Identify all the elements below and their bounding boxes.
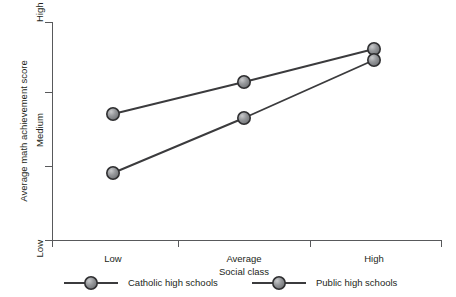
- x-tick-label-high: High: [364, 253, 384, 264]
- series-catholic-high-schools: [107, 43, 380, 120]
- chart-figure: High Medium Low Average math achievement…: [0, 0, 456, 297]
- y-tick-label-medium: Medium: [34, 113, 45, 147]
- data-point-public-high: [368, 54, 380, 66]
- x-axis: [53, 241, 442, 248]
- legend-label-public: Public high schools: [316, 277, 398, 288]
- y-axis-title: Average math achievement score: [18, 60, 29, 201]
- data-point-catholic-low: [107, 108, 119, 120]
- legend-circle-marker-public: [273, 277, 285, 289]
- x-axis-title: Social class: [219, 266, 269, 277]
- y-tick-label-low: Low: [34, 240, 45, 258]
- legend-label-catholic: Catholic high schools: [128, 277, 218, 288]
- legend-item-catholic-high-schools[interactable]: Catholic high schools: [64, 277, 218, 290]
- legend-item-public-high-schools[interactable]: Public high schools: [252, 277, 398, 290]
- data-point-public-average: [238, 112, 250, 124]
- y-axis: [45, 22, 53, 241]
- y-tick-label-high: High: [34, 2, 45, 22]
- data-point-catholic-average: [238, 76, 250, 88]
- legend-circle-marker-catholic: [85, 277, 97, 289]
- x-tick-label-average: Average: [226, 253, 261, 264]
- line-chart: High Medium Low Average math achievement…: [0, 0, 456, 297]
- chart-legend: Catholic high schools Public high school…: [64, 277, 398, 290]
- x-tick-label-low: Low: [104, 253, 122, 264]
- data-point-public-low: [107, 167, 119, 179]
- series-public-high-schools: [107, 54, 380, 179]
